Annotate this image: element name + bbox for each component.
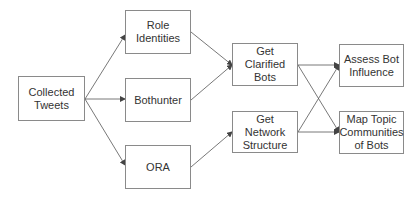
edge-arrow-role-to-clarified	[191, 32, 232, 65]
node-get-clarified-bots: Get Clarified Bots	[232, 43, 298, 86]
node-map-topic-communities: Map Topic Communities of Bots	[339, 111, 404, 154]
node-label: Get Clarified Bots	[235, 45, 295, 84]
node-label: Bothunter	[134, 94, 182, 107]
node-label: Map Topic Communities of Bots	[339, 113, 403, 152]
edge-arrow-ora-to-network	[191, 132, 232, 167]
node-label: Collected Tweets	[21, 86, 82, 112]
edge-group	[85, 32, 339, 167]
node-label: Role Identities	[128, 19, 188, 45]
node-label: Get Network Structure	[235, 113, 295, 152]
edge-arrow-bothunter-to-clarified	[191, 65, 232, 100]
node-get-network-structure: Get Network Structure	[232, 111, 298, 153]
node-ora: ORA	[125, 145, 191, 189]
node-label: ORA	[146, 161, 170, 174]
edge-arrow-collected-to-role	[85, 35, 125, 99]
node-assess-bot-influence: Assess Bot Influence	[339, 44, 404, 87]
node-label: Assess Bot Influence	[342, 53, 401, 79]
node-collected-tweets: Collected Tweets	[18, 76, 85, 121]
node-bothunter: Bothunter	[125, 78, 191, 122]
edge-arrow-collected-to-ora	[85, 99, 125, 165]
node-role-identities: Role Identities	[125, 10, 191, 54]
